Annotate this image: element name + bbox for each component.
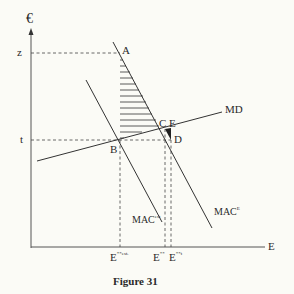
point-a: A xyxy=(122,45,130,56)
mac-e-curve xyxy=(113,42,212,228)
x-tick-star: E** xyxy=(153,252,165,263)
hatched-area xyxy=(120,60,159,138)
y-tick-t: t xyxy=(20,134,23,145)
point-d: D xyxy=(174,134,182,145)
y-axis-label: € xyxy=(26,12,33,26)
mac-est-label: MACest xyxy=(132,215,160,225)
mac-est-curve xyxy=(86,80,162,222)
point-c: C xyxy=(159,118,166,129)
x-tick-est: E**est. xyxy=(110,252,129,263)
md-curve xyxy=(37,112,222,161)
y-tick-z: z xyxy=(17,47,22,58)
shaded-triangle xyxy=(165,128,171,140)
point-e: E xyxy=(169,118,176,129)
figure-caption: Figure 31 xyxy=(113,275,158,287)
mac-e-label: MACE xyxy=(214,207,240,217)
diagram-canvas xyxy=(0,0,294,294)
point-b: B xyxy=(110,144,117,155)
x-tick-t: E**t xyxy=(169,252,182,263)
x-axis-label: E xyxy=(268,241,275,252)
md-label: MD xyxy=(225,104,243,115)
y-axis-arrow-icon xyxy=(29,28,34,35)
